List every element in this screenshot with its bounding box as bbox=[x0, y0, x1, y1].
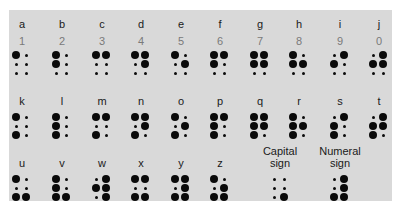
flat-dot bbox=[382, 134, 385, 137]
raised-dot bbox=[171, 113, 179, 121]
flat-dot bbox=[343, 72, 346, 75]
letter-label: m bbox=[82, 95, 122, 107]
flat-dot bbox=[263, 134, 266, 137]
letter-label: a bbox=[2, 18, 42, 30]
raised-dot bbox=[52, 193, 60, 201]
flat-dot bbox=[213, 72, 216, 75]
letter-label: p bbox=[200, 95, 240, 107]
raised-dot bbox=[52, 131, 60, 139]
raised-dot bbox=[210, 175, 218, 183]
flat-dot bbox=[372, 54, 375, 57]
braille-pattern bbox=[289, 51, 309, 73]
flat-dot bbox=[15, 63, 18, 66]
flat-dot bbox=[302, 72, 305, 75]
raised-dot bbox=[289, 60, 297, 68]
raised-dot bbox=[52, 175, 60, 183]
flat-dot bbox=[174, 125, 177, 128]
flat-dot bbox=[343, 125, 346, 128]
braille-pattern bbox=[131, 113, 151, 135]
raised-dot bbox=[52, 51, 60, 59]
raised-dot bbox=[220, 193, 228, 201]
flat-dot bbox=[25, 63, 28, 66]
braille-pattern bbox=[289, 113, 309, 135]
raised-dot bbox=[289, 51, 297, 59]
letter-label: v bbox=[42, 157, 82, 169]
numeral-label: 8 bbox=[279, 35, 319, 47]
raised-dot bbox=[250, 113, 258, 121]
raised-dot bbox=[260, 113, 268, 121]
flat-dot bbox=[263, 72, 266, 75]
raised-dot bbox=[289, 131, 297, 139]
braille-pattern bbox=[12, 51, 32, 73]
flat-dot bbox=[95, 63, 98, 66]
raised-dot bbox=[260, 51, 268, 59]
raised-dot bbox=[171, 175, 179, 183]
letter-label: z bbox=[200, 157, 240, 169]
raised-dot bbox=[220, 113, 228, 121]
flat-dot bbox=[372, 116, 375, 119]
raised-dot bbox=[12, 113, 20, 121]
raised-dot bbox=[131, 193, 139, 201]
braille-pattern bbox=[92, 51, 112, 73]
flat-dot bbox=[65, 63, 68, 66]
sign-label-line2: sign bbox=[250, 157, 310, 169]
letter-label: h bbox=[279, 18, 319, 30]
raised-dot bbox=[181, 60, 189, 68]
flat-dot bbox=[25, 178, 28, 181]
numeral-label: 7 bbox=[240, 35, 280, 47]
raised-dot bbox=[330, 131, 338, 139]
numeral-label: 3 bbox=[82, 35, 122, 47]
raised-dot bbox=[131, 131, 139, 139]
sign-label-line1: Numeral bbox=[310, 145, 370, 157]
flat-dot bbox=[213, 187, 216, 190]
flat-dot bbox=[333, 72, 336, 75]
raised-dot bbox=[141, 122, 149, 130]
braille-pattern bbox=[330, 51, 350, 73]
flat-dot bbox=[65, 178, 68, 181]
braille-pattern bbox=[369, 51, 389, 73]
raised-dot bbox=[141, 175, 149, 183]
letter-label: q bbox=[240, 95, 280, 107]
raised-dot bbox=[340, 51, 348, 59]
flat-dot bbox=[65, 116, 68, 119]
flat-dot bbox=[144, 187, 147, 190]
raised-dot bbox=[92, 131, 100, 139]
flat-dot bbox=[343, 134, 346, 137]
raised-dot bbox=[299, 60, 307, 68]
flat-dot bbox=[134, 72, 137, 75]
flat-dot bbox=[253, 72, 256, 75]
braille-pattern bbox=[52, 51, 72, 73]
raised-dot bbox=[379, 51, 387, 59]
flat-dot bbox=[15, 72, 18, 75]
flat-dot bbox=[333, 178, 336, 181]
flat-dot bbox=[95, 178, 98, 181]
braille-pattern bbox=[369, 113, 389, 135]
flat-dot bbox=[333, 187, 336, 190]
letter-label: g bbox=[240, 18, 280, 30]
flat-dot bbox=[65, 187, 68, 190]
flat-dot bbox=[273, 178, 276, 181]
raised-dot bbox=[210, 51, 218, 59]
numeral-label: 9 bbox=[320, 35, 360, 47]
raised-dot bbox=[340, 113, 348, 121]
raised-dot bbox=[330, 193, 338, 201]
raised-dot bbox=[330, 122, 338, 130]
braille-pattern bbox=[210, 175, 230, 197]
raised-dot bbox=[210, 131, 218, 139]
raised-dot bbox=[289, 113, 297, 121]
flat-dot bbox=[25, 125, 28, 128]
letter-label: b bbox=[42, 18, 82, 30]
flat-dot bbox=[273, 187, 276, 190]
letter-label: r bbox=[279, 95, 319, 107]
raised-dot bbox=[369, 131, 377, 139]
flat-dot bbox=[302, 116, 305, 119]
flat-dot bbox=[15, 125, 18, 128]
braille-pattern bbox=[92, 175, 112, 197]
raised-dot bbox=[141, 51, 149, 59]
numeral-label: 5 bbox=[161, 35, 201, 47]
numeral-label: 2 bbox=[42, 35, 82, 47]
numeral-label: 6 bbox=[200, 35, 240, 47]
numeral-label: 1 bbox=[2, 35, 42, 47]
flat-dot bbox=[144, 134, 147, 137]
flat-dot bbox=[223, 63, 226, 66]
